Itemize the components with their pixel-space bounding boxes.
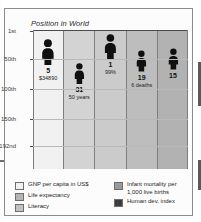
legend-item[interactable]: GNP per capita in US$ <box>15 181 111 190</box>
column-marker-literacy: 199% <box>95 34 125 76</box>
legend-swatch-icon <box>114 182 123 190</box>
column-sublabel: $34890 <box>33 75 63 82</box>
chart-title: Position in World <box>31 19 89 28</box>
y-axis-tick-label: 192nd <box>0 143 16 149</box>
gridline <box>31 89 188 90</box>
chart-column-gnp-per-capita[interactable]: 5$34890 <box>33 30 64 169</box>
legend-swatch-icon <box>15 193 24 201</box>
legend-label: Literacy <box>28 203 49 211</box>
person-pictogram <box>74 63 85 84</box>
legend-item[interactable]: Human dev. index <box>114 198 194 207</box>
legend-label: GNP per capita in US$ <box>28 181 89 189</box>
screenshot-root: Position in World 5$348903150 years199%1… <box>0 0 201 222</box>
legend-item[interactable]: Infant mortality per 1,000 live births <box>114 181 194 196</box>
column-sublabel: 99% <box>95 69 125 76</box>
legend-label: Infant mortality per 1,000 live births <box>127 181 177 196</box>
chart-legend: GNP per capita in US$Life expectancyLite… <box>15 181 193 219</box>
figure-container: Position in World 5$348903150 years199%1… <box>4 8 193 216</box>
gridline <box>31 31 188 32</box>
plot-area: 5$348903150 years199%196 deaths15 <box>33 30 188 169</box>
page-top-margin <box>0 0 201 5</box>
y-axis-tick-mark <box>30 89 33 90</box>
column-rank-value: 5 <box>33 66 63 75</box>
column-rank-value: 1 <box>95 60 125 69</box>
legend-item[interactable]: Life expectancy <box>15 192 111 201</box>
y-axis-tick-mark <box>30 119 33 120</box>
legend-swatch-icon <box>15 182 24 190</box>
gridline <box>31 146 188 147</box>
gridline <box>31 119 188 120</box>
legend-label: Human dev. index <box>127 198 175 206</box>
page-edge-mark-right-upper <box>198 62 201 106</box>
legend-label: Life expectancy <box>28 192 70 200</box>
y-axis-tick-label: 100th <box>1 86 16 92</box>
plot-right-axis <box>187 30 188 169</box>
person-pictogram <box>104 34 117 59</box>
chart-columns: 5$348903150 years199%196 deaths15 <box>33 30 188 169</box>
legend-swatch-icon <box>114 199 123 207</box>
legend-item[interactable]: Literacy <box>15 203 111 212</box>
person-pictogram <box>41 39 55 65</box>
y-axis-tick-label: 50th <box>4 56 16 62</box>
gridline <box>31 59 188 60</box>
column-rank-value: 15 <box>158 71 188 80</box>
page-left-margin <box>0 0 2 222</box>
y-axis-tick-mark <box>30 146 33 147</box>
page-edge-mark-right-lower <box>198 160 201 190</box>
plot-left-axis <box>33 30 34 169</box>
chart-column-infant-mortality[interactable]: 196 deaths <box>127 30 158 169</box>
chart-column-literacy[interactable]: 199% <box>95 30 126 169</box>
person-pictogram <box>136 50 147 72</box>
column-sublabel: 6 deaths <box>127 82 157 89</box>
legend-column-right: Infant mortality per 1,000 live birthsHu… <box>114 181 194 209</box>
legend-swatch-icon <box>15 204 24 212</box>
y-axis-tick-label: 1st <box>8 28 16 34</box>
column-marker-human-dev-index: 15 <box>158 48 188 80</box>
legend-column-left: GNP per capita in US$Life expectancyLite… <box>15 181 111 214</box>
column-marker-life-expectancy: 3150 years <box>64 63 94 101</box>
y-axis-tick-label: 150th <box>1 116 16 122</box>
y-axis-tick-mark <box>30 31 33 32</box>
column-sublabel: 50 years <box>64 94 94 101</box>
column-marker-infant-mortality: 196 deaths <box>127 50 157 89</box>
y-axis-tick-mark <box>30 59 33 60</box>
column-marker-gnp-per-capita: 5$34890 <box>33 39 63 82</box>
chart-column-life-expectancy[interactable]: 3150 years <box>64 30 95 169</box>
chart-column-human-dev-index[interactable]: 15 <box>158 30 188 169</box>
column-rank-value: 19 <box>127 73 157 82</box>
